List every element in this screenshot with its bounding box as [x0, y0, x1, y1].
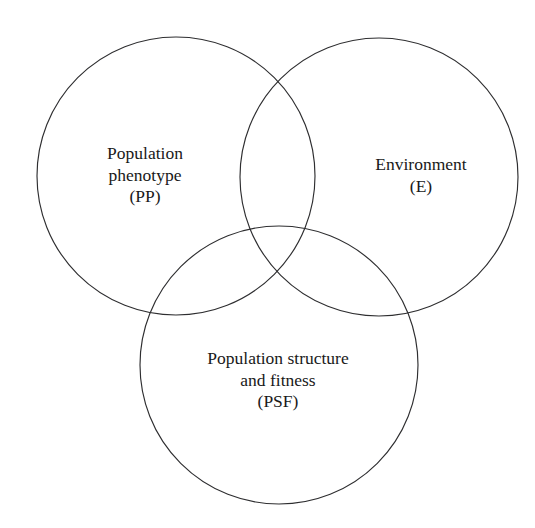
venn-circles-canvas — [0, 0, 535, 528]
venn-diagram: Population phenotype (PP) Environment (E… — [0, 0, 535, 528]
venn-label-psf-line-2: and fitness — [148, 370, 408, 392]
venn-label-psf-abbreviation: (PSF) — [148, 391, 408, 413]
venn-label-pp-line-2: phenotype — [45, 165, 245, 187]
venn-label-pp-abbreviation: (PP) — [45, 186, 245, 208]
venn-label-pp-line-1: Population — [45, 143, 245, 165]
venn-label-environment: Environment (E) — [331, 154, 511, 197]
venn-label-population-phenotype: Population phenotype (PP) — [45, 143, 245, 208]
venn-label-e-line-1: Environment — [331, 154, 511, 176]
venn-label-psf-line-1: Population structure — [148, 348, 408, 370]
venn-label-e-abbreviation: (E) — [331, 176, 511, 198]
venn-label-population-structure-and-fitness: Population structure and fitness (PSF) — [148, 348, 408, 413]
